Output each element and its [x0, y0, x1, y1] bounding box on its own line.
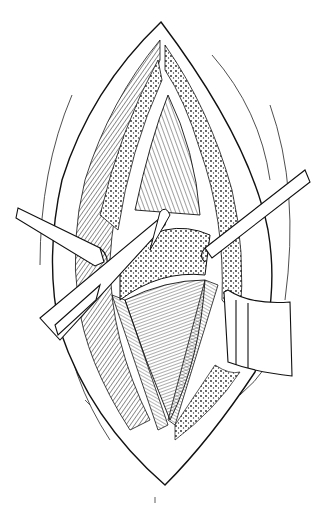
illustration-canvas: Pen-and-ink illustration of an open surg…: [0, 0, 323, 514]
surgical-illustration: [0, 0, 323, 514]
retractor-right-blade: [224, 290, 292, 376]
